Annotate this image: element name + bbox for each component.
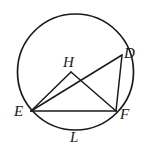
segment-ED xyxy=(31,55,122,111)
main-circle xyxy=(18,14,134,130)
segment-DF xyxy=(116,55,122,111)
point-label-d: D xyxy=(124,46,135,61)
point-label-h: H xyxy=(63,55,74,70)
point-label-f: F xyxy=(120,107,129,122)
point-label-e: E xyxy=(14,104,23,119)
geometry-figure: D H E F L xyxy=(0,0,151,157)
segment-HF xyxy=(71,72,116,111)
arc-label-l: L xyxy=(70,130,78,145)
segment-EH xyxy=(31,72,71,111)
